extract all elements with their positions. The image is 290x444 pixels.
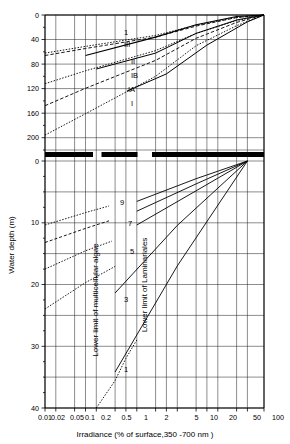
xtick-2: 2	[165, 413, 169, 422]
ytick-lower-30: 30	[31, 342, 39, 351]
xtick-0p1: 0.1	[85, 413, 95, 422]
xtick-0p2: 0.2	[101, 413, 111, 422]
curve-label-upper-1: 1	[124, 28, 128, 37]
xtick-0p5: 0.5	[122, 413, 132, 422]
curve-label-upper-III: III	[124, 40, 130, 49]
ytick-upper-160: 160	[27, 109, 39, 118]
xtick-0p01: 0.01	[38, 413, 52, 422]
ytick-upper-80: 80	[31, 60, 39, 69]
xtick-5: 5	[195, 413, 199, 422]
xtick-0p02: 0.02	[51, 413, 65, 422]
chart-svg: 0 40 80 120 160 200 0 10 20 30 40	[0, 0, 290, 444]
curve-label-lower-7: 7	[128, 219, 132, 228]
curve-label-upper-IB: IB	[131, 71, 138, 80]
xtick-1: 1	[144, 413, 148, 422]
ytick-upper-0: 0	[35, 11, 39, 20]
ytick-upper-120: 120	[27, 84, 39, 93]
curve-label-upper-I: I	[131, 99, 133, 108]
xtick-50: 50	[253, 413, 261, 422]
ytick-upper-200: 200	[27, 133, 39, 142]
ytick-lower-40: 40	[31, 404, 39, 413]
ytick-lower-10: 10	[31, 218, 39, 227]
curve-label-lower-3: 3	[124, 295, 128, 304]
annotation-multicellular-algae: Lower limit of multicellular algae	[91, 243, 100, 357]
curve-label-upper-II: II	[131, 57, 135, 66]
ytick-upper-40: 40	[31, 35, 39, 44]
curve-label-upper-IA: IA	[128, 85, 135, 94]
annotation-laminariales: Lower limit of Laminariales	[140, 238, 149, 333]
xtick-0p05: 0.05	[70, 413, 84, 422]
xtick-20: 20	[229, 413, 237, 422]
divider-band	[45, 152, 264, 157]
ytick-lower-20: 20	[31, 280, 39, 289]
y-axis-title: Water depth (m)	[7, 216, 16, 274]
curve-label-lower-9: 9	[120, 198, 124, 207]
xtick-100: 100	[272, 413, 284, 422]
curve-label-lower-5: 5	[130, 247, 134, 256]
curve-label-lower-1: 1	[124, 365, 128, 374]
ytick-lower-0: 0	[35, 157, 39, 166]
xtick-10: 10	[210, 413, 218, 422]
chart-figure: 0 40 80 120 160 200 0 10 20 30 40	[0, 0, 290, 444]
x-axis-title: Irradiance (% of surface,350 -700 nm )	[77, 430, 214, 439]
